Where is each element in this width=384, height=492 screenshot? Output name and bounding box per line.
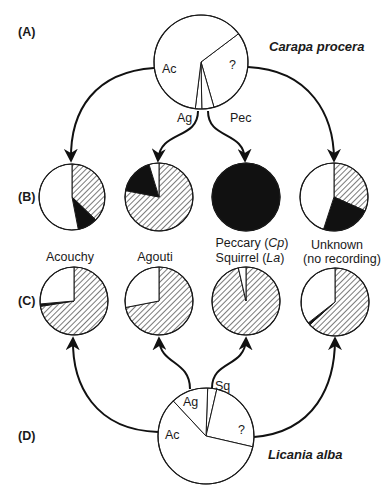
- row-label-d: (D): [18, 429, 35, 443]
- arrow-a-to-unknown: [248, 67, 334, 160]
- row-label-b: (B): [18, 190, 35, 204]
- pie-a-label-ac: Ac: [162, 62, 177, 76]
- caption-unknown: Unknown: [311, 238, 363, 252]
- arrow-d-to-acouchy: [73, 339, 158, 432]
- pie-slice: [40, 267, 74, 304]
- pie-a-label-unknown: ?: [229, 58, 236, 72]
- pie-d-label-sq: Sq: [215, 379, 230, 393]
- pie-b3: [212, 163, 280, 231]
- pie-d-label-ac: Ac: [165, 428, 180, 442]
- species-top: Carapa procera: [269, 40, 364, 54]
- arrow-a-to-acouchy: [71, 68, 154, 160]
- row-label-c: (C): [18, 294, 35, 308]
- arrows: [71, 67, 335, 437]
- caption-squirrel: Squirrel (La): [216, 251, 285, 265]
- arrow-d-to-agouti: [159, 339, 190, 389]
- caption-agouti: Agouti: [137, 250, 172, 264]
- pie-c3: [212, 267, 280, 335]
- pie-b4: [300, 163, 368, 231]
- pie-b2: [125, 163, 193, 231]
- row-label-a: (A): [18, 25, 35, 39]
- pie-slice: [125, 267, 159, 307]
- pie-b1: [39, 164, 105, 230]
- pie-slice: [39, 164, 78, 230]
- caption-no-recording: (no recording): [303, 252, 381, 266]
- pie-d-label-unknown: ?: [238, 423, 245, 437]
- pie-a-label-ag: Ag: [177, 111, 192, 125]
- pie-c4: [301, 268, 369, 336]
- caption-acouchy: Acouchy: [46, 250, 94, 264]
- pie-c2: [125, 267, 193, 335]
- arrow-d-to-unknown: [254, 339, 335, 437]
- figure: (A) (B) (C) (D) Carapa procera Licania a…: [0, 0, 384, 492]
- pie-a-label-pec: Pec: [230, 111, 252, 125]
- species-bottom: Licania alba: [268, 448, 342, 462]
- pie-c1: [40, 267, 108, 335]
- pie-d-label-ag: Ag: [183, 395, 198, 409]
- caption-peccary: Peccary (Cp): [216, 236, 289, 250]
